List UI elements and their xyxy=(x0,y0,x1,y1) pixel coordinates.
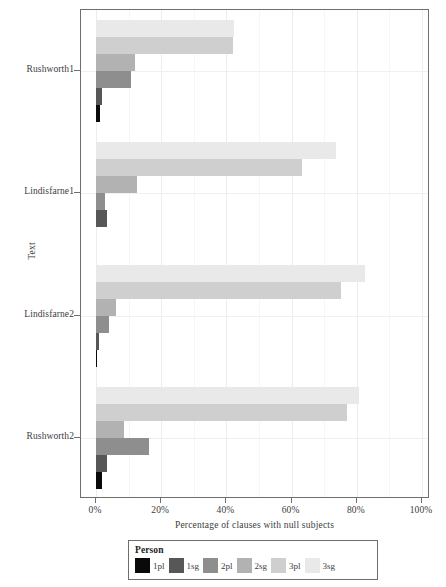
gridline-major-x xyxy=(357,10,358,497)
legend-swatch-2sg xyxy=(237,558,252,573)
bar-rushworth2-3pl xyxy=(96,404,347,421)
gridline-major-y xyxy=(81,71,428,72)
legend-swatch-2pl xyxy=(203,558,218,573)
bar-rushworth1-1sg xyxy=(96,88,102,105)
bar-rushworth1-2pl xyxy=(96,71,131,88)
x-axis-title: Percentage of clauses with null subjects xyxy=(80,520,429,530)
gridline-minor-x xyxy=(389,10,390,497)
bar-rushworth2-2pl xyxy=(96,438,149,455)
bar-lindisfarne2-2pl xyxy=(96,316,109,333)
y-tick-label-lindisfarne1: Lindisfarne1 xyxy=(24,186,74,196)
bar-lindisfarne2-2sg xyxy=(96,299,116,316)
y-tick-mark xyxy=(74,437,80,438)
x-tick-label-60pct: 60% xyxy=(268,505,314,515)
legend-label-3pl: 3pl xyxy=(289,561,301,571)
legend-swatch-3pl xyxy=(271,558,286,573)
legend-label-2pl: 2pl xyxy=(221,561,233,571)
legend-item-2pl[interactable]: 2pl xyxy=(203,558,233,573)
y-tick-mark xyxy=(74,70,80,71)
y-tick-mark xyxy=(74,315,80,316)
legend-title: Person xyxy=(135,544,372,556)
legend-swatch-1pl xyxy=(135,558,150,573)
bar-rushworth2-2sg xyxy=(96,421,124,438)
legend-item-1pl[interactable]: 1pl xyxy=(135,558,165,573)
legend-items: 1pl1sg2pl2sg3pl3sg xyxy=(135,558,372,573)
legend-label-3sg: 3sg xyxy=(323,561,336,571)
gridline-minor-x xyxy=(324,10,325,497)
legend-swatch-3sg xyxy=(305,558,320,573)
legend-item-2sg[interactable]: 2sg xyxy=(237,558,268,573)
legend-label-2sg: 2sg xyxy=(255,561,268,571)
legend-label-1sg: 1sg xyxy=(187,561,200,571)
bar-lindisfarne2-3pl xyxy=(96,282,341,299)
legend-item-3sg[interactable]: 3sg xyxy=(305,558,336,573)
bar-rushworth1-2sg xyxy=(96,54,135,71)
gridline-major-y xyxy=(81,193,428,194)
bar-chart-figure: Text Rushworth1Lindisfarne1Lindisfarne2R… xyxy=(0,0,446,587)
bar-lindisfarne1-1sg xyxy=(96,210,107,227)
x-tick-label-100pct: 100% xyxy=(398,505,444,515)
chart-legend: Person 1pl1sg2pl2sg3pl3sg xyxy=(128,540,378,580)
bar-lindisfarne2-3sg xyxy=(96,265,365,282)
y-tick-label-rushworth1: Rushworth1 xyxy=(27,64,74,74)
gridline-minor-x xyxy=(194,10,195,497)
gridline-major-x xyxy=(226,10,227,497)
x-tick-mark xyxy=(421,498,422,503)
x-tick-label-0pct: 0% xyxy=(72,505,118,515)
x-tick-label-80pct: 80% xyxy=(333,505,379,515)
bar-rushworth2-1sg xyxy=(96,455,107,472)
x-tick-label-40pct: 40% xyxy=(202,505,248,515)
bar-rushworth1-3sg xyxy=(96,20,234,37)
y-tick-label-rushworth2: Rushworth2 xyxy=(27,431,74,441)
bar-rushworth2-3sg xyxy=(96,387,359,404)
bar-lindisfarne1-2pl xyxy=(96,193,105,210)
gridline-major-x xyxy=(292,10,293,497)
x-tick-label-20pct: 20% xyxy=(137,505,183,515)
gridline-major-y xyxy=(81,316,428,317)
legend-swatch-1sg xyxy=(169,558,184,573)
bar-lindisfarne2-1pl xyxy=(96,350,97,367)
y-tick-label-lindisfarne2: Lindisfarne2 xyxy=(24,309,74,319)
y-axis-title: Text xyxy=(27,221,37,281)
bar-rushworth1-1pl xyxy=(96,105,100,122)
bar-lindisfarne1-3sg xyxy=(96,142,336,159)
bar-lindisfarne1-3pl xyxy=(96,159,302,176)
x-tick-mark xyxy=(160,498,161,503)
bar-rushworth1-3pl xyxy=(96,37,233,54)
legend-label-1pl: 1pl xyxy=(153,561,165,571)
gridline-major-x xyxy=(422,10,423,497)
plot-panel xyxy=(80,9,429,498)
gridline-minor-x xyxy=(259,10,260,497)
x-tick-mark xyxy=(356,498,357,503)
x-tick-mark xyxy=(291,498,292,503)
bar-rushworth2-1pl xyxy=(96,472,102,489)
gridline-major-x xyxy=(161,10,162,497)
y-tick-mark xyxy=(74,192,80,193)
legend-item-3pl[interactable]: 3pl xyxy=(271,558,301,573)
legend-item-1sg[interactable]: 1sg xyxy=(169,558,200,573)
x-tick-mark xyxy=(95,498,96,503)
bar-lindisfarne2-1sg xyxy=(96,333,99,350)
x-tick-mark xyxy=(225,498,226,503)
bar-lindisfarne1-2sg xyxy=(96,176,137,193)
